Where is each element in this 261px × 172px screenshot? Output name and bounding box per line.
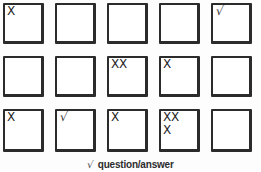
cell-marks: X xyxy=(111,111,144,148)
cell-marks xyxy=(59,58,92,93)
cell-marks xyxy=(163,5,196,40)
checkbox-cell-r3c1[interactable]: X xyxy=(3,109,44,152)
checkbox-cell-r3c5[interactable] xyxy=(211,109,252,152)
checkbox-cell-r2c5[interactable] xyxy=(211,56,252,97)
checkbox-grid: X √ xyxy=(3,3,258,152)
cell-marks xyxy=(215,111,248,148)
grid-row: XX X xyxy=(3,56,258,97)
cell-marks: X xyxy=(163,58,196,93)
mark-line: X xyxy=(163,124,171,137)
checkbox-cell-r1c4[interactable] xyxy=(159,3,200,44)
grid-row: X √ X XX X xyxy=(3,109,258,152)
mark-line: X xyxy=(111,111,119,124)
checkbox-cell-r1c1[interactable]: X xyxy=(3,3,44,44)
mark-line: X xyxy=(7,5,15,18)
mark-line: XX xyxy=(163,111,179,124)
checkmark-icon: √ xyxy=(87,160,94,170)
cell-marks xyxy=(59,5,92,40)
cell-marks: XX xyxy=(111,58,144,93)
mark-line: XX xyxy=(111,58,127,71)
checkbox-cell-r1c5[interactable]: √ xyxy=(211,3,252,44)
checkbox-cell-r2c4[interactable]: X xyxy=(159,56,200,97)
checkbox-cell-r1c3[interactable] xyxy=(107,3,148,44)
checkbox-cell-r3c4[interactable]: XX X xyxy=(159,109,200,152)
checkbox-cell-r2c1[interactable] xyxy=(3,56,44,97)
cell-marks xyxy=(111,5,144,40)
checkmark-icon: √ xyxy=(58,111,68,124)
checkbox-grid-sheet: X √ xyxy=(0,0,261,172)
checkbox-cell-r3c3[interactable]: X xyxy=(107,109,148,152)
grid-row: X √ xyxy=(3,3,258,44)
mark-line: X xyxy=(7,111,15,124)
cell-marks: XX X xyxy=(163,111,196,148)
legend-label: question/answer xyxy=(98,160,174,170)
cell-marks: √ xyxy=(215,5,248,40)
cell-marks xyxy=(7,58,40,93)
checkbox-cell-r2c2[interactable] xyxy=(55,56,96,97)
checkmark-icon: √ xyxy=(214,5,224,18)
cell-marks xyxy=(215,58,248,93)
cell-marks: X xyxy=(7,111,40,148)
checkbox-cell-r3c2[interactable]: √ xyxy=(55,109,96,152)
legend-caption: √ question/answer xyxy=(0,160,261,172)
mark-line: X xyxy=(163,58,171,71)
checkbox-cell-r2c3[interactable]: XX xyxy=(107,56,148,97)
checkbox-cell-r1c2[interactable] xyxy=(55,3,96,44)
cell-marks: X xyxy=(7,5,40,40)
cell-marks: √ xyxy=(59,111,92,148)
